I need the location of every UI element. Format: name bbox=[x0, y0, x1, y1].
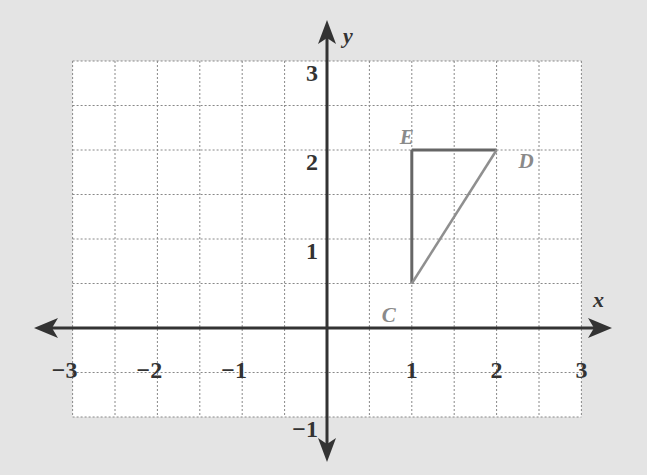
x-tick-label: −1 bbox=[221, 357, 247, 383]
x-axis-label: x bbox=[592, 287, 604, 312]
x-tick-label: 3 bbox=[575, 357, 587, 383]
y-tick-label: −1 bbox=[292, 416, 318, 442]
point-label-d: D bbox=[518, 149, 534, 173]
x-tick-label: −3 bbox=[52, 357, 78, 383]
point-label-c: C bbox=[382, 303, 397, 327]
y-tick-label: 1 bbox=[306, 238, 318, 264]
y-tick-label: 2 bbox=[306, 149, 318, 175]
x-tick-label: 2 bbox=[491, 357, 503, 383]
coordinate-plane: xy −3−2−1123321−1 CDE bbox=[0, 0, 647, 475]
y-axis-label: y bbox=[340, 23, 353, 48]
x-tick-label: −2 bbox=[137, 357, 163, 383]
point-label-e: E bbox=[399, 125, 414, 149]
x-tick-label: 1 bbox=[406, 357, 418, 383]
plot-svg: xy −3−2−1123321−1 CDE bbox=[0, 0, 647, 475]
y-tick-label: 3 bbox=[306, 60, 318, 86]
